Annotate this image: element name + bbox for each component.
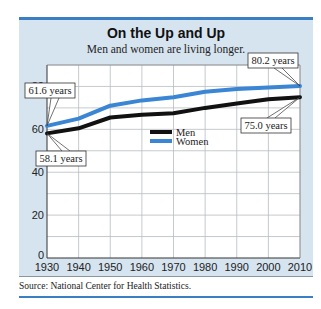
x-tick-label: 1990 [225,261,249,273]
x-tick-label: 1940 [66,261,90,273]
legend-label-women: Women [176,136,209,147]
source-note: Source: National Center for Health Stati… [19,281,191,291]
bottom-rule [19,296,313,298]
line-chart: 0204060801930194019501960197019801990200… [0,0,321,309]
x-tick-label: 1960 [130,261,154,273]
x-tick-label: 1970 [161,261,185,273]
x-tick-label: 2000 [256,261,280,273]
callout-label: 80.2 years [251,55,294,66]
x-tick-label: 1980 [193,261,217,273]
y-tick-label: 0 [38,249,44,261]
callout-label: 61.6 years [28,85,71,96]
y-tick-label: 40 [32,166,44,178]
divider [19,276,313,277]
callout-label: 75.0 years [244,120,287,131]
x-tick-label: 1950 [98,261,122,273]
x-tick-label: 2010 [288,261,312,273]
y-tick-label: 20 [32,209,44,221]
callout-label: 58.1 years [39,153,82,164]
x-tick-label: 1930 [35,261,59,273]
y-tick-label: 60 [32,123,44,135]
